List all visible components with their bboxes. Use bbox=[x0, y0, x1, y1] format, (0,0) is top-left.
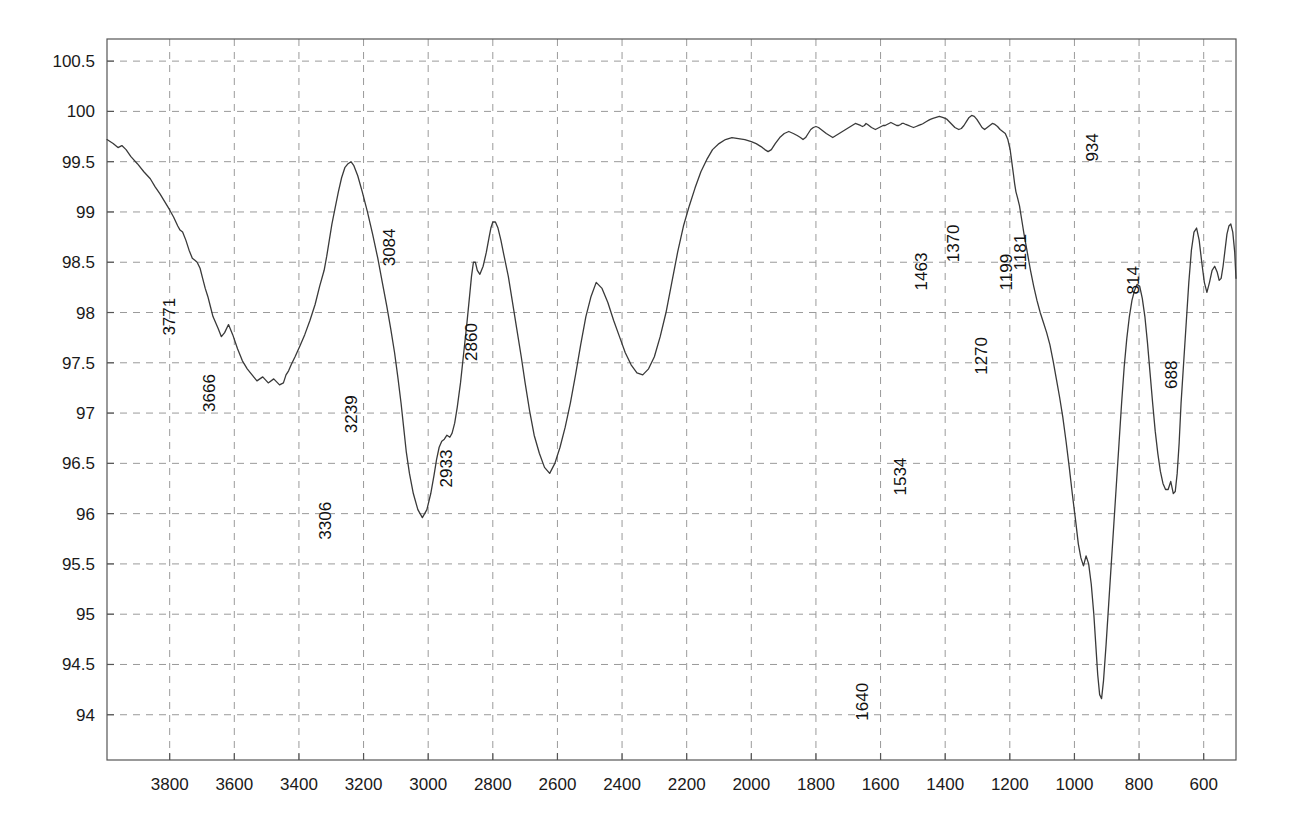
peak-label-1370: 1370 bbox=[944, 224, 963, 262]
x-tick-label-2200: 2200 bbox=[668, 775, 706, 794]
y-axis-tick-labels: 100.510099.59998.59897.59796.59695.59594… bbox=[52, 52, 95, 725]
x-tick-label-2000: 2000 bbox=[732, 775, 770, 794]
peak-label-3771: 3771 bbox=[160, 298, 179, 336]
peak-label-1534: 1534 bbox=[891, 458, 910, 496]
y-tick-label-95.5: 95.5 bbox=[62, 555, 95, 574]
peak-label-1463: 1463 bbox=[912, 253, 931, 291]
y-tick-label-97.5: 97.5 bbox=[62, 354, 95, 373]
x-tick-label-1000: 1000 bbox=[1056, 775, 1094, 794]
x-tick-label-3000: 3000 bbox=[409, 775, 447, 794]
peak-label-3084: 3084 bbox=[380, 228, 399, 266]
x-tick-label-1200: 1200 bbox=[991, 775, 1029, 794]
ir-spectrum-chart: 100.510099.59998.59897.59796.59695.59594… bbox=[0, 0, 1302, 824]
x-tick-label-1800: 1800 bbox=[797, 775, 835, 794]
y-tick-label-96.5: 96.5 bbox=[62, 454, 95, 473]
peak-label-2860: 2860 bbox=[462, 323, 481, 361]
peak-label-1181: 1181 bbox=[1011, 234, 1030, 271]
axes-frame bbox=[107, 39, 1236, 760]
plot-frame bbox=[107, 39, 1236, 760]
peak-label-814: 814 bbox=[1124, 266, 1143, 294]
y-tick-label-98.5: 98.5 bbox=[62, 253, 95, 272]
y-tick-label-94.5: 94.5 bbox=[62, 655, 95, 674]
y-tick-label-100: 100 bbox=[67, 102, 95, 121]
x-tick-label-1400: 1400 bbox=[926, 775, 964, 794]
spectrum-plot-svg: 100.510099.59998.59897.59796.59695.59594… bbox=[0, 0, 1302, 824]
peak-label-934: 934 bbox=[1083, 133, 1102, 161]
y-tick-label-99.5: 99.5 bbox=[62, 153, 95, 172]
x-tick-label-600: 600 bbox=[1190, 775, 1218, 794]
y-tick-label-94: 94 bbox=[76, 706, 95, 725]
x-tick-label-3600: 3600 bbox=[215, 775, 253, 794]
x-tick-label-3400: 3400 bbox=[280, 775, 318, 794]
y-tick-label-98: 98 bbox=[76, 304, 95, 323]
y-tick-label-95: 95 bbox=[76, 605, 95, 624]
x-tick-label-800: 800 bbox=[1125, 775, 1153, 794]
y-tick-label-97: 97 bbox=[76, 404, 95, 423]
x-tick-label-1600: 1600 bbox=[862, 775, 900, 794]
x-axis-tick-labels: 3800360034003200300028002600240022002000… bbox=[151, 775, 1218, 794]
tick-marks bbox=[107, 61, 1204, 760]
peak-annotations-layer: 3771366633063239308429332860164015341463… bbox=[160, 133, 1181, 720]
x-tick-label-3200: 3200 bbox=[345, 775, 383, 794]
x-tick-label-2400: 2400 bbox=[603, 775, 641, 794]
y-tick-label-96: 96 bbox=[76, 505, 95, 524]
x-tick-label-3800: 3800 bbox=[151, 775, 189, 794]
peak-label-3306: 3306 bbox=[316, 502, 335, 540]
peak-label-688: 688 bbox=[1162, 361, 1181, 389]
peak-label-3666: 3666 bbox=[200, 374, 219, 412]
x-tick-label-2800: 2800 bbox=[474, 775, 512, 794]
spectrum-line-transmittance bbox=[107, 115, 1236, 698]
x-tick-label-2600: 2600 bbox=[539, 775, 577, 794]
peak-label-2933: 2933 bbox=[437, 450, 456, 488]
grid-layer bbox=[107, 39, 1236, 760]
peak-label-1270: 1270 bbox=[972, 337, 991, 375]
spectrum-curve-layer bbox=[107, 115, 1236, 698]
peak-label-3239: 3239 bbox=[342, 395, 361, 433]
peak-label-1640: 1640 bbox=[853, 683, 872, 721]
y-tick-label-99: 99 bbox=[76, 203, 95, 222]
y-tick-label-100.5: 100.5 bbox=[52, 52, 95, 71]
